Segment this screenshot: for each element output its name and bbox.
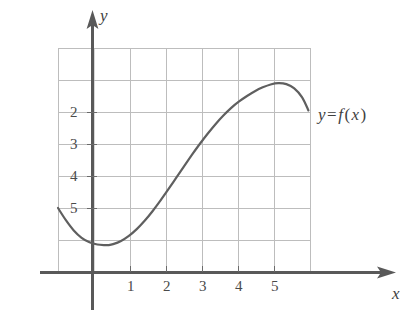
grid	[58, 48, 311, 273]
y-tick-label-4: 4	[70, 169, 78, 184]
curve-equation-y: y	[318, 105, 326, 124]
x-tick-label-4: 4	[235, 279, 243, 294]
x-tick-label-1: 1	[127, 279, 135, 294]
tick-marks	[87, 113, 275, 273]
x-tick-label-5: 5	[271, 279, 279, 294]
curve-equation-open-paren: (	[343, 105, 351, 124]
graph-canvas	[0, 0, 418, 321]
curve-equation-equals: =	[326, 105, 338, 124]
y-tick-label-5: 5	[70, 201, 78, 216]
y-tick-label-3: 3	[70, 137, 78, 152]
y-axis-label: y	[100, 7, 108, 24]
curve-equation-variable: x	[352, 105, 360, 124]
curve-equation-label: y=f(x)	[318, 106, 368, 123]
function-curve	[58, 83, 308, 245]
function-graph-figure: 5 4 3 2 1 2 3 4 5 y x y=f(x)	[0, 0, 418, 321]
y-tick-label-2: 2	[70, 105, 78, 120]
x-tick-label-3: 3	[199, 279, 207, 294]
x-tick-label-2: 2	[163, 279, 171, 294]
axes	[40, 10, 396, 310]
x-axis-label: x	[392, 285, 400, 302]
curve-equation-close-paren: )	[360, 105, 368, 124]
